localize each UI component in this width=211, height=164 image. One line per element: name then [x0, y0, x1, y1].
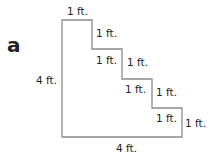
label-step4-right: 1 ft.	[185, 117, 206, 129]
label-left: 4 ft.	[36, 74, 57, 86]
label-step2-top: 1 ft.	[96, 54, 117, 66]
staircase-diagram: a 1 ft. 1 ft. 1 ft. 1 ft. 1 ft. 1 ft. 1 …	[0, 0, 211, 164]
label-bottom: 4 ft.	[116, 142, 137, 154]
label-step3-top: 1 ft.	[125, 83, 146, 95]
label-step3-right: 1 ft.	[156, 86, 177, 98]
label-step2-right: 1 ft.	[127, 56, 148, 68]
figure-letter: a	[7, 33, 21, 57]
label-step4-top: 1 ft.	[156, 112, 177, 124]
label-step1-right: 1 ft.	[96, 27, 117, 39]
label-top: 1 ft.	[67, 5, 88, 17]
